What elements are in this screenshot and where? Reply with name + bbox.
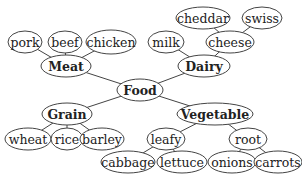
node-vegetable: Vegetable [177,103,253,125]
node-onions: onions [208,151,256,173]
node-lettuce: lettuce [157,151,207,173]
node-label: leafy [151,132,182,147]
node-milk: milk [148,31,184,53]
node-chicken: chicken [86,30,136,54]
node-barley: barley [80,128,124,150]
node-grain: Grain [42,103,92,125]
node-label: cheddar [177,11,229,26]
node-label: Grain [47,107,86,122]
node-beef: beef [48,31,82,53]
node-swiss: swiss [242,7,282,29]
node-label: chicken [86,35,135,50]
diagram-canvas: FoodMeatDairyGrainVegetableporkbeefchick… [0,0,302,179]
node-label: pork [10,35,40,50]
node-carrots: carrots [254,151,302,173]
food-concept-diagram: FoodMeatDairyGrainVegetableporkbeefchick… [0,0,302,179]
node-food: Food [117,79,163,101]
node-label: lettuce [160,155,204,170]
node-label: swiss [245,11,279,26]
node-wheat: wheat [5,128,51,150]
node-label: cheese [208,35,252,50]
node-cabbage: cabbage [101,151,155,173]
node-label: root [235,132,261,147]
nodes-layer: FoodMeatDairyGrainVegetableporkbeefchick… [5,7,302,173]
node-cheese: cheese [206,31,254,53]
node-leafy: leafy [147,128,185,150]
node-label: rice [55,132,79,147]
node-rice: rice [51,128,83,150]
node-label: barley [82,132,123,147]
node-label: Food [123,83,157,98]
node-label: milk [152,35,180,50]
node-meat: Meat [41,55,91,77]
node-root: root [229,128,267,150]
node-label: Meat [48,59,84,74]
node-label: onions [211,155,253,170]
node-pork: pork [8,31,42,53]
node-label: Vegetable [180,107,250,122]
node-cheddar: cheddar [176,7,230,29]
node-label: wheat [9,132,48,147]
node-dairy: Dairy [178,55,230,77]
node-label: beef [51,35,80,50]
node-label: Dairy [185,59,223,74]
node-label: carrots [255,155,300,170]
node-label: cabbage [101,155,154,170]
